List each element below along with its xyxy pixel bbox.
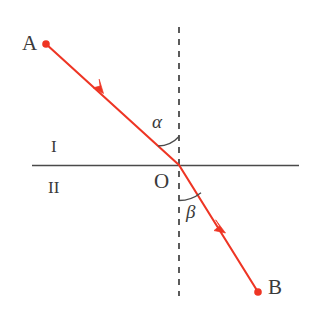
point-b-label: B [268, 277, 282, 298]
point-o-label: O [154, 171, 169, 192]
medium-upper-label: I [51, 138, 57, 155]
medium-lower-label: II [48, 179, 59, 196]
refraction-diagram: A B O I II α β [0, 0, 318, 324]
angle-alpha-label: α [152, 112, 162, 131]
point-a-label: A [22, 33, 37, 54]
point-a-dot [42, 40, 50, 48]
angle-alpha-arc [158, 137, 179, 147]
refracted-ray-arrowhead-icon [214, 220, 226, 233]
incident-ray [46, 44, 179, 165]
angle-beta-label: β [186, 202, 195, 221]
point-b-dot [254, 288, 262, 296]
